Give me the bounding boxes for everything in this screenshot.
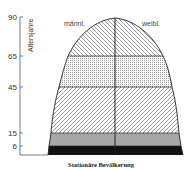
tick-label-15: 15 <box>8 129 17 138</box>
population-pyramid-diagram: 90 65 45 15 6 Altersjahre männl. weibl. … <box>0 0 192 170</box>
tick-label-65: 65 <box>8 52 17 61</box>
y-axis-title: Altersjahre <box>27 18 35 52</box>
diagram-caption: Stationäre Bevölkerung <box>68 161 135 168</box>
tick-label-45: 45 <box>8 83 17 92</box>
y-axis-ticks: 90 65 45 15 6 <box>8 13 23 151</box>
tick-label-6: 6 <box>13 142 18 151</box>
label-female: weibl. <box>141 20 160 27</box>
label-male: männl. <box>64 20 85 27</box>
tick-label-90: 90 <box>8 13 17 22</box>
